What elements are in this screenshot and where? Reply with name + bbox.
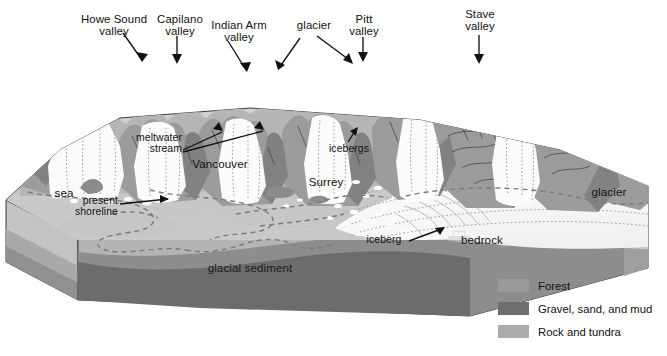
label-iceberg-line1: iceberg xyxy=(356,235,412,246)
legend-item-forest: Forest xyxy=(498,274,666,297)
label-surrey-line1: Surrey xyxy=(292,176,360,188)
label-glacier-right-line1: glacier xyxy=(578,186,640,198)
label-glacier-top-line1: glacier xyxy=(286,20,342,32)
label-stave-valley-line2: valley xyxy=(452,21,508,33)
label-glacial-sediment: glacial sediment xyxy=(186,262,314,274)
label-vancouver-line1: Vancouver xyxy=(172,158,268,170)
legend: Forest Gravel, sand, and mud Rock and tu… xyxy=(498,274,666,343)
label-bedrock: bedrock xyxy=(450,234,514,246)
label-present-shoreline: present shoreline xyxy=(42,196,118,218)
label-pitt-valley-line2: valley xyxy=(338,26,390,38)
label-pitt-valley: Pitt valley xyxy=(338,14,390,38)
label-iceberg: iceberg xyxy=(356,235,412,246)
legend-label-forest: Forest xyxy=(538,280,570,292)
label-bedrock-line1: bedrock xyxy=(450,234,514,246)
legend-item-gravel-sand-mud: Gravel, sand, and mud xyxy=(498,297,666,320)
label-glacial-sediment-line1: glacial sediment xyxy=(186,262,314,274)
label-meltwater-stream-line2: stream xyxy=(96,144,182,155)
label-indian-arm-valley-line2: valley xyxy=(196,32,282,44)
label-surrey: Surrey xyxy=(292,176,360,188)
legend-swatch-forest xyxy=(498,279,529,292)
label-meltwater-stream: meltwater stream xyxy=(96,133,182,155)
label-icebergs-line1: icebergs xyxy=(318,144,380,155)
label-icebergs: icebergs xyxy=(318,144,380,155)
label-indian-arm-valley: Indian Arm valley xyxy=(196,20,282,44)
label-present-shoreline-line2: shoreline xyxy=(42,207,118,218)
label-vancouver: Vancouver xyxy=(172,158,268,170)
label-glacier-right: glacier xyxy=(578,186,640,198)
legend-label-rock-tundra: Rock and tundra xyxy=(538,326,621,338)
label-stave-valley: Stave valley xyxy=(452,9,508,33)
legend-swatch-rock-tundra xyxy=(498,325,529,338)
legend-label-gravel-sand-mud: Gravel, sand, and mud xyxy=(538,303,652,315)
figure-canvas: Howe Sound valley Capilano valley Indian… xyxy=(0,0,667,356)
legend-item-rock-tundra: Rock and tundra xyxy=(498,320,666,343)
label-glacier-top: glacier xyxy=(286,20,342,32)
legend-swatch-gravel-sand-mud xyxy=(498,302,529,315)
